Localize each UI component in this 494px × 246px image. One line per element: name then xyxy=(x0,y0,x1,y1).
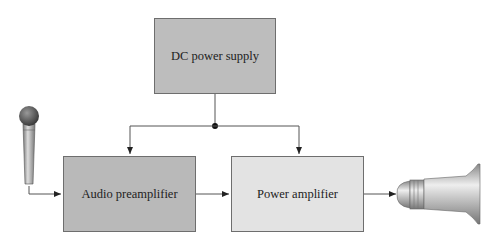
power-amplifier-label: Power amplifier xyxy=(257,187,338,202)
dc-power-supply-label: DC power supply xyxy=(171,49,259,64)
audio-preamplifier-label: Audio preamplifier xyxy=(81,187,177,202)
audio-preamplifier-block: Audio preamplifier xyxy=(63,156,196,232)
speaker-icon xyxy=(397,164,480,224)
dc-power-supply-block: DC power supply xyxy=(154,18,276,94)
microphone-icon xyxy=(19,106,39,184)
power-amplifier-block: Power amplifier xyxy=(231,156,364,232)
wire-mic-to-preamp xyxy=(29,186,61,194)
